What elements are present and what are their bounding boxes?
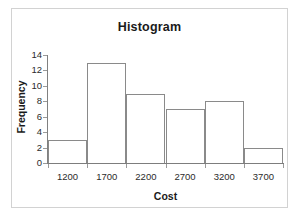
histogram-figure: Histogram Frequency 02468101214 Cost 120…: [0, 0, 297, 216]
y-axis-tick-mark: [43, 101, 47, 102]
y-axis-tick-mark: [43, 70, 47, 71]
x-axis-tick-label: 1200: [46, 171, 90, 182]
y-axis-tick-mark: [43, 86, 47, 87]
y-axis-tick-label: 4: [16, 127, 42, 137]
y-axis-tick-label: 8: [16, 96, 42, 106]
y-axis-tick-mark: [43, 132, 47, 133]
histogram-bar: [244, 148, 283, 163]
y-axis-tick-mark: [43, 163, 47, 164]
x-axis-tick-label: 3200: [202, 171, 246, 182]
histogram-bar: [205, 101, 244, 163]
y-axis-tick-label: 6: [16, 112, 42, 122]
x-axis-tick-mark: [244, 164, 245, 168]
y-axis-tick-mark: [43, 55, 47, 56]
histogram-bar: [126, 94, 165, 163]
y-axis-tick-labels: 02468101214: [11, 0, 42, 216]
histogram-bar: [87, 63, 126, 163]
plot-area: [48, 55, 283, 163]
histogram-bar: [48, 140, 87, 163]
x-axis-tick-label: 1700: [85, 171, 129, 182]
y-axis-tick-mark: [43, 117, 47, 118]
histogram-bar: [166, 109, 205, 163]
x-axis-tick-mark: [166, 164, 167, 168]
y-axis-tick-label: 2: [16, 143, 42, 153]
x-axis-title: Cost: [48, 190, 283, 202]
y-axis-tick-label: 14: [16, 50, 42, 60]
x-axis-tick-mark: [126, 164, 127, 168]
y-axis-tick-label: 0: [16, 158, 42, 168]
x-axis-tick-label: 2700: [163, 171, 207, 182]
x-axis-tick-mark: [283, 164, 284, 168]
x-axis-tick-label: 2200: [124, 171, 168, 182]
y-axis-tick-mark: [43, 148, 47, 149]
y-axis-tick-label: 10: [16, 81, 42, 91]
x-axis-tick-label: 3700: [241, 171, 285, 182]
y-axis-tick-label: 12: [16, 65, 42, 75]
chart-title: Histogram: [11, 20, 288, 34]
x-axis-tick-mark: [48, 164, 49, 168]
x-axis-tick-mark: [87, 164, 88, 168]
x-axis-tick-mark: [205, 164, 206, 168]
